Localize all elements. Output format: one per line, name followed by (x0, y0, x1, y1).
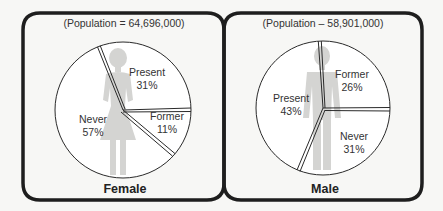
slice-pct: 57% (73, 126, 113, 139)
female-population-label: (Population = 64,696,000) (63, 17, 185, 29)
slice-name: Former (145, 110, 189, 123)
slice-pct: 11% (145, 123, 189, 136)
slice-name: Never (73, 113, 113, 126)
male-slice-never: Never 31% (334, 130, 374, 156)
female-slice-present: Present 31% (125, 66, 169, 92)
male-slice-present: Present 43% (269, 92, 313, 118)
slice-name: Former (330, 68, 374, 81)
slice-name: Present (269, 92, 313, 105)
female-slice-never: Never 57% (73, 113, 113, 139)
female-slice-former: Former 11% (145, 110, 189, 136)
slice-pct: 26% (330, 81, 374, 94)
slice-name: Present (125, 66, 169, 79)
male-population-label: (Population – 58,901,000) (262, 17, 384, 29)
male-slice-former: Former 26% (330, 68, 374, 94)
female-panel-title: Female (93, 182, 157, 196)
chart-canvas (0, 0, 443, 211)
slice-name: Never (334, 130, 374, 143)
slice-pct: 43% (269, 105, 313, 118)
slice-pct: 31% (334, 143, 374, 156)
slice-pct: 31% (125, 79, 169, 92)
male-panel-title: Male (293, 182, 357, 196)
